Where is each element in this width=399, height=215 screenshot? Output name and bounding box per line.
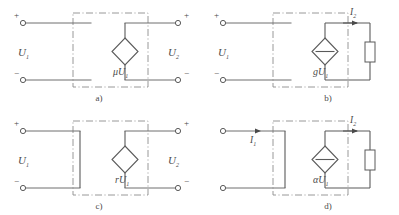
panel-caption: d): [324, 201, 332, 211]
output-plus-sign: +: [184, 118, 189, 128]
input-minus-sign: −: [14, 68, 19, 78]
input-plus-sign: +: [14, 10, 19, 20]
panel-caption: a): [96, 93, 103, 103]
output-terminal-negative: [175, 185, 180, 190]
output-current-arrowhead: [352, 21, 358, 26]
panel-caption: b): [324, 93, 332, 103]
input-terminal-positive: [20, 20, 25, 25]
output-minus-sign: −: [184, 68, 189, 78]
input-plus-sign: +: [14, 118, 19, 128]
input-terminal-negative: [20, 185, 25, 190]
output-current-arrowhead: [352, 129, 358, 134]
input-minus-sign: −: [214, 68, 219, 78]
source-label: μU1: [112, 66, 128, 79]
input-voltage-label: U1: [18, 154, 29, 168]
panel-c-schematic: + − + − U1 U2 rU1 c): [0, 108, 199, 215]
dependent-voltage-source: [112, 146, 138, 173]
output-voltage-label: U2: [168, 154, 179, 168]
input-terminal-positive: [220, 20, 225, 25]
load-resistor: [365, 150, 375, 170]
output-current-label: I2: [349, 115, 356, 127]
input-terminal-negative: [220, 77, 225, 82]
input-minus-sign: −: [14, 176, 19, 186]
input-terminal-positive: [20, 128, 25, 133]
panel-b-schematic: I2 + − U1 gU1 b): [200, 0, 399, 107]
panel-a: + − + − U1 U2 μU1 a): [0, 0, 199, 107]
output-terminal-positive: [175, 20, 180, 25]
panel-d-schematic: I1 I2 αU1 d): [200, 108, 399, 215]
panel-b: I2 + − U1 gU1 b): [200, 0, 399, 107]
panel-c: + − + − U1 U2 rU1 c): [0, 108, 199, 215]
input-plus-sign: +: [214, 10, 219, 20]
dependent-voltage-source: [112, 38, 138, 65]
input-current-arrowhead: [255, 129, 261, 134]
source-label: αU1: [313, 174, 328, 187]
panel-a-schematic: + − + − U1 U2 μU1 a): [0, 0, 199, 107]
input-voltage-label: U1: [18, 46, 29, 60]
output-voltage-label: U2: [168, 46, 179, 60]
source-label: gU1: [313, 66, 328, 79]
load-resistor: [365, 42, 375, 62]
input-terminal-top: [220, 128, 225, 133]
source-label: rU1: [115, 174, 129, 187]
output-plus-sign: +: [184, 10, 189, 20]
output-terminal-negative: [175, 77, 180, 82]
panel-caption: c): [96, 201, 103, 211]
output-terminal-positive: [175, 128, 180, 133]
input-terminal-negative: [20, 77, 25, 82]
output-current-label: I2: [349, 7, 356, 19]
output-minus-sign: −: [184, 176, 189, 186]
input-current-label: I1: [249, 135, 256, 147]
input-voltage-label: U1: [218, 46, 229, 60]
circuit-figure: + − + − U1 U2 μU1 a): [0, 0, 399, 215]
panel-d: I1 I2 αU1 d): [200, 108, 399, 215]
input-terminal-bottom: [220, 185, 225, 190]
